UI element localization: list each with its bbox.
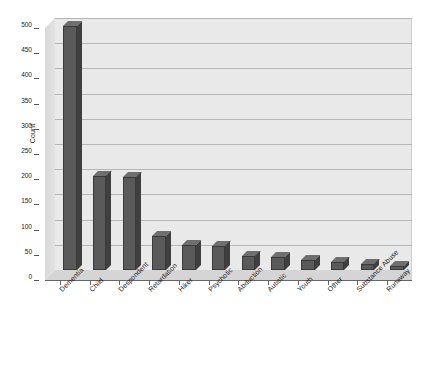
bar (123, 172, 137, 270)
bar (93, 171, 107, 270)
y-axis-tick-label: 400 (2, 71, 32, 78)
y-axis-tick-mark (34, 204, 39, 205)
y-axis-tick-label: 100 (2, 222, 32, 229)
bar-side-face (77, 21, 82, 270)
y-axis-tick-mark (34, 78, 39, 79)
bar (331, 257, 345, 270)
y-axis-tick-label: 0 (2, 273, 32, 280)
y-axis-tick-mark (34, 230, 39, 231)
bar-front-face (123, 177, 137, 270)
y-axis-tick-mark (34, 255, 39, 256)
y-axis-tick-label: 50 (2, 247, 32, 254)
y-axis-tick-label: 300 (2, 121, 32, 128)
bar (63, 21, 77, 270)
bar-side-face (344, 257, 349, 270)
y-axis-tick-label: 200 (2, 172, 32, 179)
y-axis-tick-label: 150 (2, 197, 32, 204)
bar (152, 231, 166, 270)
plot-area (45, 18, 412, 280)
bar-side-face (285, 252, 290, 270)
bar (271, 252, 285, 270)
bar-front-face (301, 260, 315, 270)
bar-chart: Count DementiaChildDespondentRetardation… (0, 0, 432, 366)
y-axis-tick-mark (34, 179, 39, 180)
bar-side-face (196, 240, 201, 270)
bar (212, 241, 226, 270)
bars (55, 18, 412, 270)
y-axis-tick-label: 450 (2, 46, 32, 53)
bar-front-face (63, 26, 77, 270)
y-axis-tick-mark (34, 280, 39, 281)
y-axis-tick-mark (34, 53, 39, 54)
bar (242, 251, 256, 270)
y-axis-tick-mark (34, 28, 39, 29)
bar-front-face (271, 257, 285, 270)
bar (182, 240, 196, 270)
bar-front-face (331, 262, 345, 270)
y-axis-tick-label: 500 (2, 21, 32, 28)
y-axis-tick-label: 250 (2, 147, 32, 154)
bar (390, 261, 404, 270)
bar (301, 255, 315, 270)
bar (361, 259, 375, 270)
bar-side-face (136, 172, 141, 270)
y-axis-tick-mark (34, 104, 39, 105)
bar-side-face (106, 171, 111, 270)
y-axis-tick-mark (34, 154, 39, 155)
plot-left-wall (45, 18, 55, 280)
bar-front-face (152, 236, 166, 270)
y-axis-tick-mark (34, 129, 39, 130)
bar-front-face (242, 256, 256, 270)
bar-front-face (182, 245, 196, 270)
y-axis-tick-label: 350 (2, 96, 32, 103)
bar-front-face (93, 176, 107, 270)
bar-front-face (212, 246, 226, 270)
